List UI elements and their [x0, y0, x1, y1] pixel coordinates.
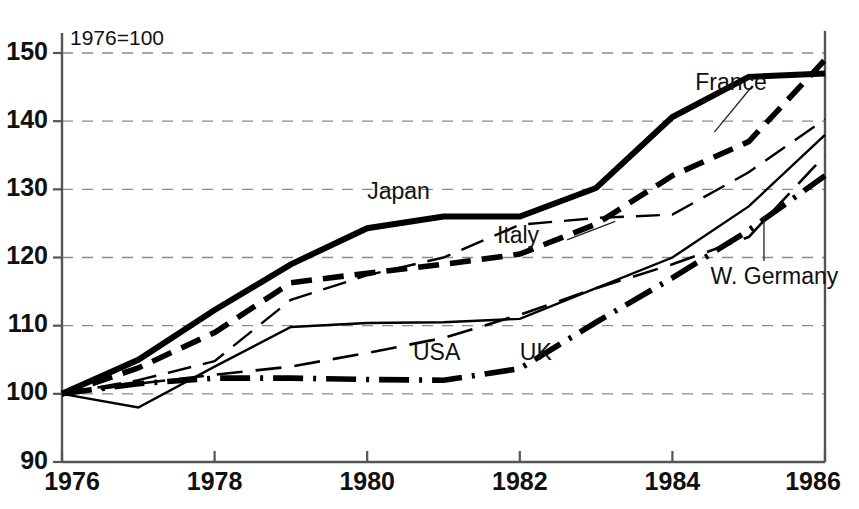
x-tick-label-1986: 1986: [785, 467, 841, 495]
series-label-uk: UK: [520, 339, 553, 365]
x-tick-label-1978: 1978: [187, 467, 243, 495]
series-label-usa: USA: [413, 339, 461, 365]
y-tick-label-110: 110: [8, 309, 48, 337]
x-tick-label-1980: 1980: [339, 467, 395, 495]
series-label-japan: Japan: [367, 178, 430, 204]
y-tick-label-150: 150: [6, 37, 48, 65]
series-label-w-germany: W. Germany: [711, 263, 839, 289]
x-tick-label-1976: 1976: [44, 467, 100, 495]
x-tick-label-1984: 1984: [645, 467, 701, 495]
y-tick-label-100: 100: [6, 377, 48, 405]
y-tick-label-130: 130: [6, 173, 48, 201]
series-label-france: France: [695, 69, 767, 95]
line-chart-svg: 90100110120130140150 1976197819801982198…: [0, 0, 859, 509]
chart-container: 90100110120130140150 1976197819801982198…: [0, 0, 859, 509]
index-base-annotation: 1976=100: [70, 26, 164, 49]
x-tick-label-1982: 1982: [492, 467, 548, 495]
y-tick-label-120: 120: [6, 241, 48, 269]
y-tick-label-140: 140: [6, 105, 48, 133]
series-label-italy: Italy: [497, 222, 540, 248]
